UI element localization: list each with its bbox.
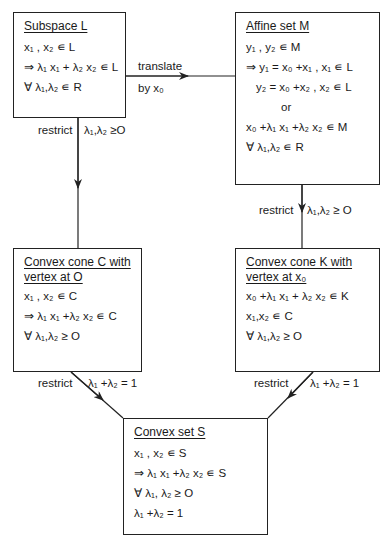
convex-cone-k-box: Convex cone K with vertex at x₀ x₀ +λ₁ x… bbox=[235, 248, 380, 372]
convex-set-s-title: Convex set S bbox=[134, 425, 257, 440]
box-line: ⇒ λ₁ x₁ +λ₂ x₂ ∊ S bbox=[134, 468, 257, 488]
restrict-label-k-s: restrict bbox=[254, 377, 289, 389]
box-line: ⇒ λ₁ x₁ + λ₂ x₂ ∊ L bbox=[24, 62, 115, 82]
box-line: x₁,x₂ ∊ C bbox=[246, 311, 369, 331]
box-line: ∀ λ₁,λ₂ ≥ O bbox=[246, 331, 369, 351]
by-x0-label: by x₀ bbox=[138, 82, 164, 94]
restrict-label-m-k: restrict bbox=[259, 204, 294, 216]
box-line: x₀ +λ₁ x₁ +λ₂ x₂ ∊ M bbox=[246, 122, 369, 142]
condition-label-m-k: λ₁,λ₂ ≥ O bbox=[307, 204, 352, 216]
box-line: ∀ λ₁, λ₂ ≥ O bbox=[134, 488, 257, 508]
box-line: ⇒ y₁ = x₀ +x₁ , x₁ ∊ L bbox=[246, 62, 369, 82]
box-line: x₁ , x₂ ∊ C bbox=[24, 291, 131, 311]
box-line: λ₁ +λ₂ = 1 bbox=[134, 508, 257, 528]
box-line: x₁ , x₂ ∊ L bbox=[24, 42, 115, 62]
restrict-label-c-s: restrict bbox=[38, 377, 73, 389]
affine-set-m-title: Affine set M bbox=[246, 19, 369, 34]
convex-cone-c-title: Convex cone C with vertex at O bbox=[24, 255, 131, 285]
box-line: x₁ , x₂ ∊ S bbox=[134, 448, 257, 468]
title-line: Convex cone K with bbox=[246, 255, 369, 270]
affine-set-m-box: Affine set M y₁ , y₂ ∊ M ⇒ y₁ = x₀ +x₁ ,… bbox=[235, 12, 380, 185]
condition-label-l-c: λ₁,λ₂ ≥O bbox=[84, 124, 126, 136]
title-line: Convex cone C with bbox=[24, 255, 131, 270]
condition-label-c-s: λ₁ +λ₂ = 1 bbox=[88, 377, 137, 389]
box-line: ∀ λ₁,λ₂ ∊ R bbox=[24, 82, 115, 102]
title-line: vertex at x₀ bbox=[246, 270, 369, 285]
convex-cone-c-box: Convex cone C with vertex at O x₁ , x₂ ∊… bbox=[13, 248, 142, 372]
box-line: or bbox=[246, 102, 369, 122]
box-line: ∀ λ₁,λ₂ ≥ O bbox=[24, 331, 131, 351]
translate-label: translate bbox=[138, 60, 182, 72]
box-line: y₂ = x₀ +x₂ , x₂ ∊ L bbox=[246, 82, 369, 102]
condition-label-k-s: λ₁ +λ₂ = 1 bbox=[310, 377, 359, 389]
box-line: y₁ , y₂ ∊ M bbox=[246, 42, 369, 62]
box-line: x₀ +λ₁ x₁ + λ₂ x₂ ∊ K bbox=[246, 291, 369, 311]
title-line: vertex at O bbox=[24, 270, 131, 285]
box-line: ∀ λ₁,λ₂ ∊ R bbox=[246, 142, 369, 162]
convex-cone-k-title: Convex cone K with vertex at x₀ bbox=[246, 255, 369, 285]
box-line: ⇒ λ₁ x₁ +λ₂ x₂ ∊ C bbox=[24, 311, 131, 331]
restrict-label-l-c: restrict bbox=[38, 124, 73, 136]
subspace-l-title: Subspace L bbox=[24, 19, 115, 34]
convex-set-s-box: Convex set S x₁ , x₂ ∊ S ⇒ λ₁ x₁ +λ₂ x₂ … bbox=[123, 418, 268, 535]
subspace-l-box: Subspace L x₁ , x₂ ∊ L ⇒ λ₁ x₁ + λ₂ x₂ ∊… bbox=[13, 12, 126, 118]
